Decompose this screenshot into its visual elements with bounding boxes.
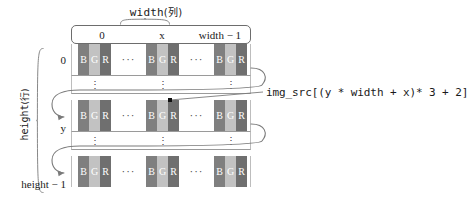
- channel-g: G: [225, 100, 236, 131]
- channel-g: G: [89, 44, 100, 75]
- pixel-cell-rowy-collast: B G R: [214, 100, 247, 131]
- row0-ellipsis-left: ···: [111, 44, 146, 75]
- channel-b: B: [78, 156, 89, 187]
- channel-r: R: [236, 100, 247, 131]
- channel-b: B: [78, 44, 89, 75]
- column-label-width-minus-1: width − 1: [190, 28, 250, 43]
- sep1-dots-colx: ⋮: [146, 76, 179, 95]
- height-axis-label-text: height: [19, 104, 30, 140]
- rowlast-ellipsis-right: ···: [179, 156, 214, 187]
- height-axis-label: height(行): [18, 72, 31, 158]
- sep2-dots-collast: ⋮: [214, 132, 247, 151]
- channel-b: B: [146, 156, 157, 187]
- pixel-cell-rowy-col0: B G R: [78, 100, 111, 131]
- sep1-dots-collast: ⋮: [214, 76, 247, 95]
- sep1-dots-col0: ⋮: [78, 76, 111, 95]
- rowy-ellipsis-left: ···: [111, 100, 146, 131]
- channel-g: G: [225, 156, 236, 187]
- channel-g: G: [225, 44, 236, 75]
- row-separator-1: ⋮ ⋮ ⋮: [71, 75, 251, 94]
- formula-label: img_src[(y * width + x)* 3 + 2]: [266, 86, 468, 99]
- channel-g: G: [157, 156, 168, 187]
- row-label-y: y: [30, 122, 66, 134]
- column-header-box: 0 x width − 1: [71, 25, 251, 44]
- column-label-0: 0: [72, 28, 132, 43]
- sep2-dots-colx: ⋮: [146, 132, 179, 151]
- channel-r: R: [100, 156, 111, 187]
- channel-r: R: [168, 44, 179, 75]
- row0-ellipsis-right: ···: [179, 44, 214, 75]
- column-label-x: x: [132, 28, 192, 43]
- pixel-row-0: B G R ··· B G R ··· B G R: [71, 44, 251, 75]
- target-byte-marker: [168, 98, 172, 102]
- pixel-cell-row0-collast: B G R: [214, 44, 247, 75]
- channel-b: B: [214, 100, 225, 131]
- channel-g: G: [89, 156, 100, 187]
- channel-b: B: [146, 44, 157, 75]
- width-axis-label: width(列): [96, 4, 216, 19]
- channel-r: R: [100, 100, 111, 131]
- pixel-cell-row0-colx: B G R: [146, 44, 179, 75]
- row-separator-2: ⋮ ⋮ ⋮: [71, 131, 251, 150]
- pixel-row-y: B G R ··· B G R ··· B G R: [71, 100, 251, 131]
- height-brace-icon: [36, 48, 44, 193]
- channel-b: B: [214, 44, 225, 75]
- height-axis-label-cjk: (行): [20, 88, 30, 104]
- pixel-cell-row0-col0: B G R: [78, 44, 111, 75]
- channel-g: G: [157, 44, 168, 75]
- channel-r: R: [236, 156, 247, 187]
- width-brace-icon: [120, 18, 170, 25]
- channel-r: R: [236, 44, 247, 75]
- sep2-dots-col0: ⋮: [78, 132, 111, 151]
- pixel-cell-rowlast-colx: B G R: [146, 156, 179, 187]
- channel-g: G: [89, 100, 100, 131]
- channel-g: G: [157, 100, 168, 131]
- pixel-cell-rowlast-collast: B G R: [214, 156, 247, 187]
- channel-r: R: [100, 44, 111, 75]
- channel-r: R: [168, 100, 179, 131]
- width-axis-label-cjk: (列): [164, 7, 182, 18]
- pixel-cell-rowlast-col0: B G R: [78, 156, 111, 187]
- channel-b: B: [146, 100, 157, 131]
- row-label-0: 0: [30, 54, 66, 66]
- pixel-row-last: B G R ··· B G R ··· B G R: [71, 156, 251, 187]
- diagram-canvas: width(列) 0 x width − 1 height(行) B G R ·…: [0, 0, 476, 210]
- channel-b: B: [214, 156, 225, 187]
- rowlast-ellipsis-left: ···: [111, 156, 146, 187]
- channel-r: R: [168, 156, 179, 187]
- row-label-height-minus-1: height − 1: [8, 178, 66, 190]
- pixel-cell-rowy-colx: B G R: [146, 100, 179, 131]
- rowy-ellipsis-right: ···: [179, 100, 214, 131]
- channel-b: B: [78, 100, 89, 131]
